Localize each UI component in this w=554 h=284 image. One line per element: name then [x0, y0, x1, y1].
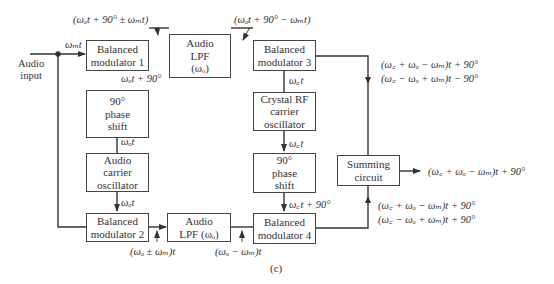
bm4-output-line2: (ω꜀ − ωₒ + ωₘ)t + 90°	[378, 213, 475, 227]
bm4-output-line1: (ω꜀ + ωₒ − ωₘ)t + 90°	[378, 199, 475, 213]
bm3-output-label: (ω꜀ + ωₒ − ωₘ)t + 90° (ω꜀ − ωₒ + ωₘ)t − …	[381, 58, 478, 86]
summing-circuit: Summingcircuit	[337, 155, 400, 186]
summing-output-label: (ω꜀ + ωₒ − ωₘ)t + 90°	[428, 164, 525, 178]
pointer-lpf-top-out	[243, 27, 250, 40]
crystal-down-label: ω꜀t	[289, 136, 303, 150]
lpf-top-output-label: (ωₒt + 90° − ωₘt)	[234, 13, 310, 25]
block-label: Audio	[179, 215, 218, 228]
block-label: carrier	[97, 166, 138, 179]
block-label: shift	[272, 179, 297, 192]
balanced-modulator-3: Balancedmodulator 3	[253, 40, 316, 71]
balanced-modulator-4: Balancedmodulator 4	[253, 213, 316, 244]
crystal-up-label: ω꜀t	[289, 73, 303, 87]
balanced-modulator-1: Balancedmodulator 1	[86, 40, 149, 71]
block-label: Summing	[347, 158, 390, 171]
block-label: Crystal RF	[261, 93, 309, 106]
audio-input-text: Audio	[18, 58, 44, 70]
phase-right-output-label: ω꜀t + 90°	[289, 197, 330, 211]
audio-carrier-oscillator: Audiocarrieroscillator	[86, 153, 149, 192]
block-label: Balanced	[258, 43, 311, 56]
figure-caption: (c)	[270, 262, 282, 274]
audio-input-text: input	[18, 70, 44, 82]
block-label: modulator 3	[258, 56, 311, 69]
block-label: oscillator	[97, 179, 138, 192]
block-label: circuit	[347, 171, 390, 184]
bm1-output-label: (ωₒt + 90° ± ωₘt)	[73, 13, 148, 25]
osc-up-label: ωₒt	[121, 136, 134, 147]
bm3-output-line1: (ω꜀ + ωₒ − ωₘ)t + 90°	[381, 58, 478, 72]
block-label: oscillator	[261, 118, 309, 131]
block-label: Audio	[186, 37, 214, 50]
block-label: phase	[105, 108, 130, 121]
block-label: shift	[105, 120, 130, 133]
bm3-output-line2: (ω꜀ − ωₒ + ωₘ)t − 90°	[381, 72, 478, 86]
block-label: Audio	[97, 154, 138, 167]
lpf-bottom-output-label: (ωₒ − ωₘ)t	[215, 245, 262, 257]
block-label: Balanced	[91, 215, 144, 228]
bm3-to-summing-line	[316, 56, 368, 155]
block-label: (ωₒ)	[186, 62, 214, 75]
crystal-rf-carrier-oscillator: Crystal RFcarrieroscillator	[253, 92, 316, 131]
phase-shift-right: 90°phaseshift	[253, 153, 316, 193]
block-label: carrier	[261, 105, 309, 118]
audio-lpf-top: AudioLPF(ωₒ)	[169, 34, 231, 78]
block-label: 90°	[272, 154, 297, 167]
block-label: modulator 4	[258, 229, 311, 242]
block-label: Balanced	[258, 216, 311, 229]
block-label: Balanced	[91, 43, 144, 56]
bm4-output-label: (ω꜀ + ωₒ − ωₘ)t + 90° (ω꜀ − ωₒ + ωₘ)t + …	[378, 199, 475, 227]
phase-shift-left: 90°phaseshift	[86, 90, 149, 138]
block-label: LPF (ωₒ)	[179, 228, 218, 241]
block-label: modulator 2	[91, 228, 144, 241]
audio-input-branch	[58, 54, 86, 227]
phase-left-output-label: ωₒt + 90°	[121, 73, 161, 84]
wm-t-label: ωₘt	[65, 38, 82, 50]
audio-input-label: Audio input	[18, 58, 44, 82]
bm2-output-label: (ωₒ ± ωₘ)t	[130, 245, 175, 257]
block-label: modulator 1	[91, 56, 144, 69]
balanced-modulator-2: Balancedmodulator 2	[86, 213, 149, 242]
block-label: phase	[272, 167, 297, 180]
block-label: LPF	[186, 50, 214, 63]
osc-down-label: ωₒt	[121, 197, 134, 208]
block-label: 90°	[105, 95, 130, 108]
audio-lpf-bottom: AudioLPF (ωₒ)	[167, 213, 231, 242]
